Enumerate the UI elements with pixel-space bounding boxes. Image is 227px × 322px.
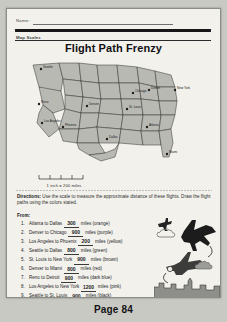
flight-route: Seattle to St. Louis (29, 293, 68, 298)
map-city-label: Seattle (43, 65, 53, 69)
flight-answer-blank[interactable]: 1200 (81, 283, 96, 292)
flight-color: (black) (98, 293, 112, 298)
flight-unit: miles (84, 230, 97, 235)
flight-list: 1.Atlanta to Dallas 300 miles (orange)2.… (21, 219, 161, 298)
map-city-label: Denver (89, 102, 99, 106)
flight-unit: miles (79, 221, 92, 226)
directions-body: Use the scale to measure the approximate… (17, 194, 211, 205)
flight-item: 9.Seattle to St. Louis 900 miles (black) (21, 291, 161, 298)
flight-route: St. Louis to New York (29, 257, 73, 262)
flight-item: 2.Denver to Chicago 900 miles (purple) (21, 228, 161, 237)
flight-item: 5.St. Louis to New York 900 miles (brown… (21, 255, 161, 264)
page-number: Page 84 (0, 304, 227, 315)
flight-color: (yellow) (107, 239, 123, 244)
map-city-label: Los Angeles (44, 119, 61, 123)
directions-text: Directions: Use the scale to measure the… (17, 194, 213, 206)
flight-unit: miles (79, 266, 92, 271)
flight-unit: miles (77, 275, 90, 280)
worksheet-page: Name: Map Scales Flight Path Frenzy (6, 8, 221, 298)
flight-color: (dark blue) (90, 275, 112, 280)
flight-unit: miles (89, 257, 102, 262)
flight-unit: miles (79, 248, 92, 253)
map-city-label: Miami (169, 150, 178, 154)
flight-answer-blank[interactable]: 800 (64, 246, 79, 255)
page-title: Flight Path Frenzy (7, 42, 220, 54)
flight-item: 8.Los Angeles to New York 1200 miles (pi… (21, 282, 161, 291)
map-city-label: Reno (41, 100, 49, 104)
flight-item: 1.Atlanta to Dallas 300 miles (orange) (21, 219, 161, 228)
flight-answer-blank[interactable]: 900 (68, 228, 83, 237)
flight-item: 3.Los Angeles to Phoenix 200 miles (yell… (21, 237, 161, 246)
flight-route: Atlanta to Dallas (29, 221, 63, 226)
flight-color: (red) (93, 266, 103, 271)
map-city-label: Chicago (135, 89, 147, 93)
name-field-row: Name: (16, 18, 176, 27)
flight-color: (green) (93, 248, 108, 253)
map-city-label: Detroit (151, 86, 160, 90)
flight-color: (purple) (97, 230, 113, 235)
directions-label: Directions: (17, 194, 41, 199)
map-city-label: Phoenix (65, 123, 77, 127)
flight-color: (pink) (110, 284, 121, 289)
from-label: From: (17, 213, 30, 218)
flight-answer-blank[interactable]: 900 (69, 292, 84, 298)
scale-caption: 1 inch = 200 miles (33, 183, 95, 188)
map-city-label: Atlanta (149, 123, 159, 127)
section-divider (16, 190, 212, 191)
map-city-label: New York (177, 86, 191, 90)
airplane-illustrations (154, 215, 220, 298)
flight-number: 5. (21, 256, 29, 264)
map-city-label: St. Louis (129, 105, 141, 109)
flight-answer-blank[interactable]: 900 (74, 255, 89, 264)
name-write-line[interactable] (33, 24, 173, 25)
flight-route: Denver to Chicago (29, 230, 68, 235)
flight-number: 2. (21, 229, 29, 237)
city-skyline-icon (154, 278, 220, 298)
flight-item: 7.Reno to Detroit 900 miles (dark blue) (21, 273, 161, 282)
us-map: SeattleRenoLos AngelesPhoenixDenverDalla… (19, 57, 209, 169)
header-rule-thick (15, 29, 211, 32)
flight-number: 9. (21, 292, 29, 298)
flight-answer-blank[interactable]: 300 (64, 219, 79, 228)
map-scale-bar: 1 inch = 200 miles (33, 173, 95, 189)
flight-color: (brown) (103, 257, 118, 262)
flight-route: Seattle to Dallas (29, 248, 63, 253)
flight-number: 3. (21, 238, 29, 246)
flight-route: Los Angeles to Phoenix (29, 239, 78, 244)
flight-answer-blank[interactable]: 200 (78, 237, 93, 246)
flight-answer-blank[interactable]: 800 (64, 265, 79, 274)
flight-unit: miles (84, 293, 97, 298)
flight-unit: miles (97, 284, 110, 289)
flight-number: 8. (21, 283, 29, 291)
map-city-label: Dallas (109, 135, 118, 139)
section-label: Map Scales (16, 35, 41, 40)
flight-answer-blank[interactable]: 900 (61, 274, 76, 283)
flight-route: Los Angeles to New York (29, 284, 81, 289)
name-label: Name: (16, 18, 30, 23)
flight-number: 4. (21, 247, 29, 255)
flight-number: 7. (21, 274, 29, 282)
flight-route: Reno to Detroit (29, 275, 61, 280)
flight-number: 6. (21, 265, 29, 273)
flight-route: Denver to Miami (29, 266, 63, 271)
flight-item: 4.Seattle to Dallas 800 miles (green) (21, 246, 161, 255)
flight-color: (orange) (93, 221, 110, 226)
flight-item: 6.Denver to Miami 800 miles (red) (21, 264, 161, 273)
flight-number: 1. (21, 220, 29, 228)
flight-unit: miles (94, 239, 107, 244)
